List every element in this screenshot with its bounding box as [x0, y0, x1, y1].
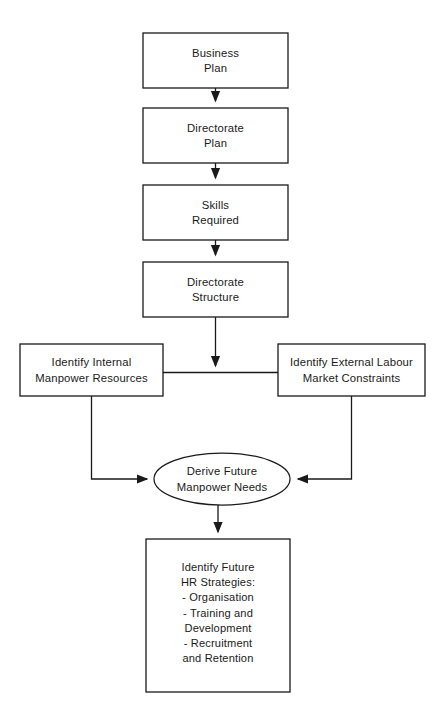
node-business-plan[interactable]: BusinessPlan — [143, 33, 288, 88]
node-directorate-structure[interactable]: DirectorateStructure — [143, 262, 288, 317]
node-label-line: Business — [192, 47, 239, 59]
edge-directorate-plan-to-skills-required — [211, 163, 220, 180]
node-label-line: Identify External Labour — [290, 356, 413, 368]
node-label-line: Manpower Needs — [177, 481, 268, 493]
node-label-line: Development — [184, 622, 251, 634]
node-label-line: Directorate — [187, 276, 244, 288]
node-derive-future-manpower-needs[interactable]: Derive FutureManpower Needs — [154, 453, 290, 505]
arrowhead-icon — [211, 356, 220, 368]
node-label-line: Plan — [204, 62, 227, 74]
edge-business-plan-to-directorate-plan — [211, 88, 220, 103]
node-directorate-plan[interactable]: DirectoratePlan — [143, 108, 288, 163]
arrowhead-icon — [211, 91, 220, 103]
node-label-line: Skills — [202, 199, 229, 211]
node-ellipse-shape — [154, 453, 290, 505]
node-skills-required[interactable]: SkillsRequired — [143, 185, 288, 240]
node-label-line: Directorate — [187, 122, 244, 134]
edge-external-to-derive — [297, 396, 352, 484]
node-label: Identify FutureHR Strategies:- Organisat… — [181, 561, 255, 664]
node-rect-shape — [143, 108, 288, 163]
node-label-line: Derive Future — [187, 465, 257, 477]
node-rect-shape — [143, 185, 288, 240]
arrowhead-icon — [211, 245, 220, 257]
node-label-line: - Recruitment — [184, 637, 253, 649]
node-rect-shape — [278, 344, 425, 396]
node-label-line: Manpower Resources — [35, 372, 148, 384]
node-rect-shape — [143, 33, 288, 88]
node-label-line: Required — [192, 214, 239, 226]
arrowhead-icon — [211, 168, 220, 180]
edge-line — [92, 396, 148, 479]
node-label-line: Plan — [204, 137, 227, 149]
node-rect-shape — [20, 344, 163, 396]
node-label-line: and Retention — [182, 652, 253, 664]
node-identify-future-hr-strategies[interactable]: Identify FutureHR Strategies:- Organisat… — [146, 539, 290, 692]
flowchart-canvas: BusinessPlanDirectoratePlanSkillsRequire… — [0, 0, 444, 720]
edge-skills-required-to-directorate-structure — [211, 240, 220, 257]
arrowhead-icon — [137, 474, 149, 483]
edge-line — [298, 396, 352, 479]
nodes-layer: BusinessPlanDirectoratePlanSkillsRequire… — [20, 33, 425, 692]
node-label-line: Market Constraints — [303, 372, 401, 384]
node-label-line: Identify Internal — [52, 356, 132, 368]
node-label-line: Identify Future — [181, 561, 254, 573]
flowchart-diagram: BusinessPlanDirectoratePlanSkillsRequire… — [0, 0, 444, 720]
node-label-line: Structure — [192, 291, 239, 303]
node-label-line: HR Strategies: — [181, 576, 255, 588]
edge-directorate-structure-to-connector — [211, 317, 220, 368]
node-identify-external-labour-market-constraints[interactable]: Identify External LabourMarket Constrain… — [278, 344, 425, 396]
edge-internal-to-derive — [92, 396, 149, 484]
node-identify-internal-manpower-resources[interactable]: Identify InternalManpower Resources — [20, 344, 163, 396]
node-rect-shape — [143, 262, 288, 317]
arrowhead-icon — [213, 522, 222, 534]
arrowhead-icon — [297, 474, 309, 483]
node-label-line: - Training and — [183, 607, 253, 619]
edge-derive-to-hr-strategies — [213, 505, 222, 534]
node-label-line: - Organisation — [182, 591, 254, 603]
